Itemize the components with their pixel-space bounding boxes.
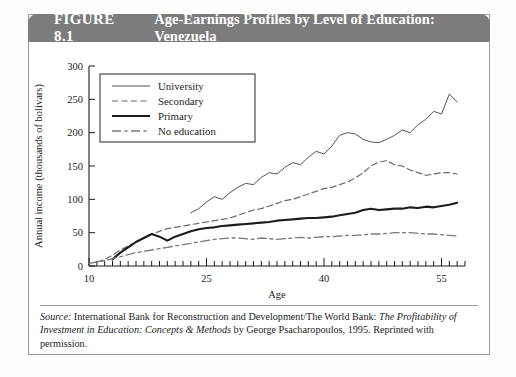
x-tick-label: 25 [201,273,212,284]
x-axis-minor-ticks [89,258,465,266]
chart-plot-region: 050100150200250300 Annual income (thousa… [28,42,490,302]
legend-label-no-education: No education [158,125,216,137]
figure-title: Age-Earnings Profiles by Level of Educat… [154,11,490,45]
chart-legend: UniversitySecondaryPrimaryNo education [100,74,255,142]
x-tick-label: 40 [319,273,330,284]
x-tick-label: 10 [84,273,95,284]
source-text-2: by George Psacharopoulos, [231,324,345,335]
series-line-secondary [97,161,457,262]
y-axis: 050100150200250300 Annual income (thousa… [33,61,95,272]
x-axis-title: Age [268,289,286,300]
y-tick-label: 250 [67,94,83,105]
y-tick-label: 300 [67,61,83,72]
x-tick-label: 55 [436,273,447,284]
y-axis-ticks [89,66,95,266]
y-tick-label: 50 [73,227,84,238]
y-tick-label: 0 [78,261,83,272]
y-tick-label: 100 [67,194,83,205]
legend-label-primary: Primary [158,110,193,122]
x-axis: 10254055 Age [84,258,465,300]
figure-header-bar: FIGURE 8.1 Age-Earnings Profiles by Leve… [28,14,490,42]
legend-label-secondary: Secondary [158,95,204,107]
series-line-primary [113,203,458,260]
y-axis-tick-labels: 050100150200250300 [67,61,83,272]
source-note: Source: International Bank for Reconstru… [40,310,480,350]
source-label: Source: [40,311,71,322]
source-text-1: International Bank for Reconstruction an… [71,311,379,322]
y-tick-label: 200 [67,127,83,138]
legend-label-university: University [158,80,204,92]
source-divider [40,305,478,306]
y-axis-title: Annual income (thousands of bolivars) [33,84,45,248]
x-axis-tick-labels: 10254055 [84,273,447,284]
age-earnings-chart: 050100150200250300 Annual income (thousa… [28,42,490,302]
figure-number: FIGURE 8.1 [54,11,136,45]
y-tick-label: 150 [67,161,83,172]
source-italic-1: The [379,311,394,322]
